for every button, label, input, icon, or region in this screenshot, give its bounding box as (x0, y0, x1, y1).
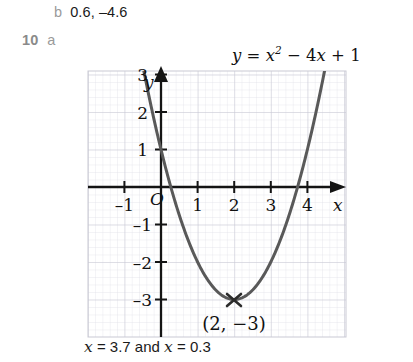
solution-variable-2: x (164, 338, 173, 356)
parabola-graph: –1 1 2 3 4 1 2 3 –1 –2 –3 O x y (2, −3) (0, 0, 413, 362)
ytick-label-2: 2 (137, 103, 148, 123)
y-axis-label: y (143, 72, 154, 92)
xtick-label-1: 1 (192, 195, 203, 215)
xtick-label-2: 2 (229, 195, 240, 215)
solution-text-second: = 0.3 (177, 338, 211, 355)
x-axis-label: x (333, 195, 343, 215)
vertex-annotation-label: (2, −3) (202, 313, 265, 334)
ytick-label--1: –1 (133, 215, 152, 235)
solution-text-first: = 3.7 and (97, 338, 160, 355)
ytick-label--2: –2 (133, 253, 152, 273)
ytick-label--3: –3 (133, 290, 152, 310)
solution-variable-1: x (84, 338, 93, 356)
origin-label: O (150, 189, 164, 209)
solution-line: x = 3.7 and x = 0.3 (84, 338, 211, 356)
xtick-label-4: 4 (302, 195, 313, 215)
xtick-label--1: –1 (115, 195, 134, 215)
ytick-label-1: 1 (137, 140, 148, 160)
xtick-label-3: 3 (265, 195, 276, 215)
